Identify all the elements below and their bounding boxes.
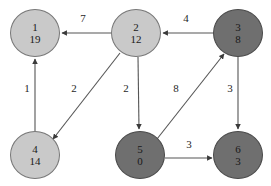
graph-node-1[interactable]: 119 [10, 9, 60, 57]
node-id-label: 4 [32, 144, 38, 155]
edge-weight-5-3: 8 [173, 83, 179, 94]
edge-5-to-3 [157, 54, 224, 139]
graph-node-2[interactable]: 212 [111, 9, 161, 57]
edge-weight-3-2: 4 [183, 13, 189, 24]
node-id-label: 5 [137, 144, 143, 155]
node-id-label: 1 [32, 22, 38, 33]
graph-diagram-canvas: 119212384145063 74122833 [0, 0, 271, 186]
node-distance-label: 0 [137, 156, 143, 167]
edge-weight-2-4: 2 [71, 83, 77, 94]
node-id-label: 2 [133, 22, 139, 33]
edge-weight-4-1: 1 [24, 83, 30, 94]
node-distance-label: 12 [131, 34, 142, 45]
node-distance-label: 14 [30, 156, 41, 167]
edge-weight-5-6: 3 [186, 139, 192, 150]
graph-node-6[interactable]: 63 [213, 131, 263, 179]
node-distance-label: 3 [235, 156, 241, 167]
node-distance-label: 8 [235, 34, 241, 45]
edge-weight-2-1: 7 [80, 13, 86, 24]
edge-weight-3-6: 3 [227, 83, 233, 94]
node-distance-label: 19 [30, 34, 41, 45]
node-id-label: 6 [235, 144, 241, 155]
graph-node-3[interactable]: 38 [213, 9, 263, 57]
edge-weight-2-5: 2 [123, 83, 129, 94]
edge-2-to-4 [53, 53, 120, 139]
edge-2-to-5 [138, 57, 139, 129]
graph-node-4[interactable]: 414 [10, 131, 60, 179]
node-id-label: 3 [235, 22, 241, 33]
graph-node-5[interactable]: 50 [115, 131, 165, 179]
